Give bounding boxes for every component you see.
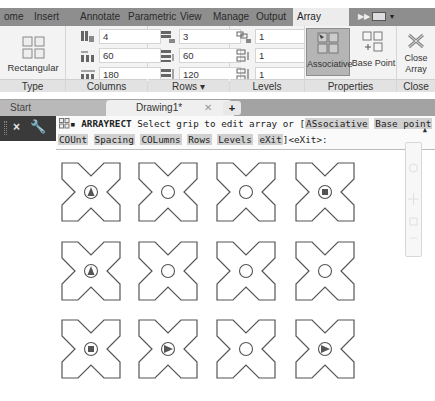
array-item-r3c1	[62, 320, 120, 378]
chevron-down-icon[interactable]: ▾	[390, 11, 394, 23]
close-command-line-icon[interactable]: ×	[13, 120, 20, 134]
array-item-r1c4	[296, 163, 354, 221]
array-item-r2c2	[139, 242, 197, 300]
expand-tabs-icon[interactable]: ▶▶	[358, 11, 370, 23]
dropdown-icon[interactable]: ▪	[70, 118, 81, 129]
option-rows[interactable]: Rows	[187, 134, 211, 145]
row-between-row: 60	[160, 47, 241, 64]
tab-view[interactable]: View	[176, 8, 206, 26]
close-array-button[interactable]: Close Array	[399, 28, 433, 76]
command-line: × 🔧 ▪ ARRAYRECT Select grip to edit arra…	[0, 116, 435, 150]
levels-count-icon	[236, 30, 252, 44]
panel-title-type: Type	[0, 79, 65, 92]
ribbon-panel-area: Rectangular Type 4 60 180 Columns 3 60	[0, 26, 435, 92]
row-spacing-icon	[160, 49, 176, 63]
drag-handle[interactable]	[4, 121, 7, 135]
base-point-icon	[362, 31, 384, 53]
rows-count-row: 3	[160, 28, 241, 45]
array-item-r2c4	[296, 242, 354, 300]
rectangular-array-drawing	[0, 150, 435, 380]
level-between-input[interactable]: 1	[255, 48, 305, 63]
ribbon-tab-bar: ome Insert Annotate Parametric View Mana…	[0, 8, 435, 26]
history-up-arrow-icon[interactable]: ▲	[423, 126, 427, 134]
command-line-box[interactable]: ▪ ARRAYRECT Select grip to edit array or…	[56, 116, 435, 150]
array-item-r1c2	[139, 163, 197, 221]
array-item-r3c4	[296, 320, 354, 378]
rectangular-label: Rectangular	[2, 62, 64, 73]
array-item-r2c1	[62, 242, 120, 300]
tab-annotate[interactable]: Annotate	[76, 8, 124, 26]
tab-start[interactable]: Start	[0, 100, 110, 116]
panel-title-levels: Levels	[230, 79, 304, 92]
panel-type: Rectangular Type	[0, 26, 66, 92]
panel-rows: 3 60 120 Rows ▾	[148, 26, 230, 92]
default-option-text: ]<eXit>:	[283, 134, 328, 145]
array-item-r3c3	[217, 320, 275, 378]
close-array-label-2: Array	[399, 64, 433, 74]
tab-parametric[interactable]: Parametric	[124, 8, 180, 26]
level-between-row: 1	[236, 47, 305, 64]
rectangular-array-icon	[22, 36, 46, 60]
panel-close: Close Array Close	[397, 26, 435, 92]
array-command-icon	[59, 118, 70, 129]
grip-triangle-up-icon	[88, 187, 95, 196]
associative-label: Associative	[307, 59, 349, 69]
command-prompt-line-2: COUnt Spacing COLumns Rows Levels eXit]<…	[58, 134, 328, 145]
customize-wrench-icon[interactable]: 🔧	[30, 119, 46, 134]
level-spacing-icon	[236, 49, 252, 63]
base-point-button[interactable]: Base Point	[351, 28, 396, 76]
levels-count-row: 1	[236, 28, 305, 45]
rows-count-icon	[160, 30, 176, 44]
tab-manage[interactable]: Manage	[209, 8, 253, 26]
levels-count-input[interactable]: 1	[255, 29, 305, 44]
panel-title-columns: Columns	[66, 79, 147, 92]
panel-title-properties: Properties	[305, 79, 396, 92]
array-item-r1c3	[217, 163, 275, 221]
prompt-text: Select grip to edit array or [	[132, 118, 306, 129]
grip-triangle-right-icon	[321, 345, 330, 353]
panel-title-rows[interactable]: Rows ▾	[148, 79, 229, 92]
option-count[interactable]: COUnt	[58, 134, 88, 145]
option-associative[interactable]: ASsociative	[305, 118, 369, 129]
close-icon	[407, 33, 425, 49]
panel-columns: 4 60 180 Columns	[66, 26, 148, 92]
document-tab-bar: Start Drawing1* ✕ +	[0, 99, 435, 116]
array-item-r3c2	[139, 320, 197, 378]
option-levels[interactable]: Levels	[217, 134, 253, 145]
close-array-label-1: Close	[399, 53, 433, 63]
tab-array-creation[interactable]: Array Creation	[293, 8, 349, 26]
associative-button[interactable]: Associative	[306, 28, 350, 76]
close-tab-icon[interactable]: ✕	[204, 100, 212, 115]
array-item-r2c3	[217, 242, 275, 300]
base-point-label: Base Point	[351, 58, 396, 68]
grip-triangle-right-icon	[164, 345, 173, 353]
panel-title-close: Close	[397, 79, 435, 92]
columns-count-icon	[80, 30, 96, 44]
grip-square-icon	[88, 346, 94, 352]
grip-triangle-up-icon	[88, 266, 95, 275]
command-prompt-line-1: ▪ ARRAYRECT Select grip to edit array or…	[59, 118, 432, 129]
tab-drawing1[interactable]: Drawing1* ✕	[106, 100, 234, 116]
drawing-canvas[interactable]	[0, 150, 435, 380]
tab-insert[interactable]: Insert	[30, 8, 63, 26]
command-line-controls: × 🔧	[0, 116, 56, 141]
option-spacing[interactable]: Spacing	[94, 134, 135, 145]
ribbon-minimize-button[interactable]	[372, 12, 386, 21]
option-exit[interactable]: eXit	[258, 134, 282, 145]
tab-home[interactable]: ome	[0, 8, 27, 26]
rectangular-button[interactable]: Rectangular	[2, 28, 64, 76]
tab-drawing1-label: Drawing1*	[136, 102, 182, 113]
panel-levels: 1 1 1 Levels	[230, 26, 305, 92]
tab-output[interactable]: Output	[252, 8, 290, 26]
option-columns[interactable]: COLumns	[140, 134, 181, 145]
column-spacing-icon	[80, 49, 96, 63]
new-tab-button[interactable]: +	[223, 101, 241, 115]
grip-square-icon	[322, 189, 328, 195]
array-item-r1c1	[62, 163, 120, 221]
panel-properties: Associative Base Point Properties	[305, 26, 397, 92]
associative-icon	[317, 32, 339, 54]
command-name: ARRAYRECT	[81, 118, 131, 129]
